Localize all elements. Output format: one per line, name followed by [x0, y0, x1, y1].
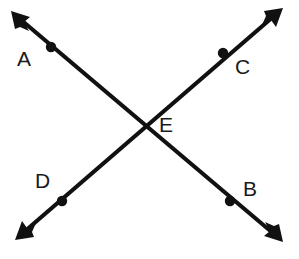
point-dot-c: [218, 48, 228, 58]
arrowhead-a-end: [11, 11, 30, 31]
arrowhead-b-end: [264, 222, 283, 242]
point-label-c: C: [235, 56, 250, 77]
geometry-figure: A C E D B: [0, 0, 299, 259]
point-label-d: D: [35, 170, 50, 191]
point-label-e: E: [159, 114, 173, 135]
geometry-canvas: [0, 0, 299, 259]
point-dot-d: [57, 196, 67, 206]
point-label-a: A: [17, 48, 31, 69]
point-label-b: B: [243, 178, 257, 199]
point-dot-a: [46, 42, 56, 52]
point-dot-b: [225, 196, 235, 206]
